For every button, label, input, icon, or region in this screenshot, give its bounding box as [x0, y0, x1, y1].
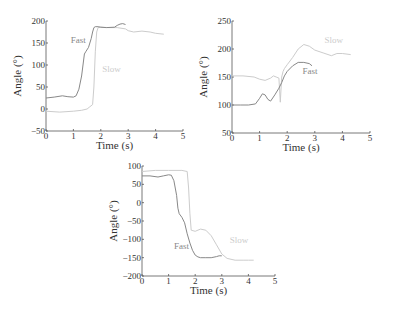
x-tick-label: 5	[368, 133, 373, 143]
y-tick-label: 250	[218, 16, 232, 26]
x-tick-label: 4	[246, 276, 251, 286]
x-tick-label: 1	[71, 131, 76, 141]
series-label-fast: Fast	[71, 35, 87, 45]
y-tick-label: 100	[218, 100, 232, 110]
y-tick-label: 0	[41, 104, 46, 114]
y-axis-label: Angle (°)	[107, 200, 120, 242]
y-axis-label: Angle (°)	[197, 56, 210, 98]
y-tick-label: −50	[127, 216, 142, 226]
y-tick-label: −200	[122, 271, 141, 281]
y-tick-label: 200	[32, 16, 46, 26]
series-label-slow: Slow	[324, 35, 343, 45]
series-label-slow: Slow	[102, 64, 121, 74]
y-tick-label: −100	[122, 234, 141, 244]
y-tick-label: −50	[31, 126, 46, 136]
y-axis-label: Angle (°)	[11, 55, 24, 97]
y-tick-label: −150	[122, 253, 141, 263]
chart-top-left: 012345−50050100150200Time (s)Angle (°)Fa…	[11, 16, 186, 152]
series-label-fast: Fast	[174, 241, 190, 251]
series-line-slow	[142, 170, 254, 260]
series-label-slow: Slow	[230, 235, 249, 245]
y-tick-label: 0	[137, 198, 142, 208]
x-axis-label: Time (s)	[282, 141, 320, 154]
x-tick-label: 1	[257, 133, 262, 143]
x-tick-label: 5	[273, 276, 278, 286]
y-tick-label: 200	[218, 44, 232, 54]
y-tick-label: 50	[132, 179, 142, 189]
series-label-fast: Fast	[302, 66, 318, 76]
chart-top-right: 01234550100150200250Time (s)Angle (°)Fas…	[197, 16, 373, 154]
series-line-slow	[232, 45, 351, 103]
chart-bottom-center: 012345−200−150−100−50050100Time (s)Angle…	[107, 161, 278, 297]
x-tick-label: 1	[166, 276, 171, 286]
y-tick-label: 150	[32, 38, 46, 48]
x-axis-label: Time (s)	[190, 284, 228, 297]
series-line-fast	[46, 24, 126, 98]
x-axis-label: Time (s)	[96, 139, 134, 152]
figure-canvas: 012345−50050100150200Time (s)Angle (°)Fa…	[0, 0, 393, 312]
x-tick-label: 4	[153, 131, 158, 141]
y-tick-label: 100	[128, 161, 142, 171]
x-tick-label: 5	[181, 131, 186, 141]
y-tick-label: 150	[218, 72, 232, 82]
x-tick-label: 4	[340, 133, 345, 143]
y-tick-label: 100	[32, 60, 46, 70]
y-tick-label: 50	[222, 128, 232, 138]
series-line-fast	[232, 62, 312, 105]
y-tick-label: 50	[36, 82, 46, 92]
